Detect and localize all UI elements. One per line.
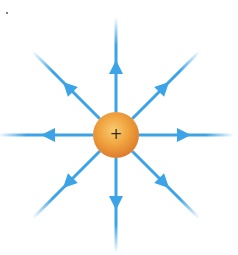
arrowhead-icon bbox=[109, 60, 123, 74]
plus-sign: + bbox=[110, 127, 123, 142]
arrowhead-icon bbox=[109, 196, 123, 210]
arrowhead-icon bbox=[41, 128, 55, 142]
stray-dot bbox=[6, 12, 8, 14]
diagram: + bbox=[0, 0, 238, 255]
arrowhead-icon bbox=[177, 128, 191, 142]
